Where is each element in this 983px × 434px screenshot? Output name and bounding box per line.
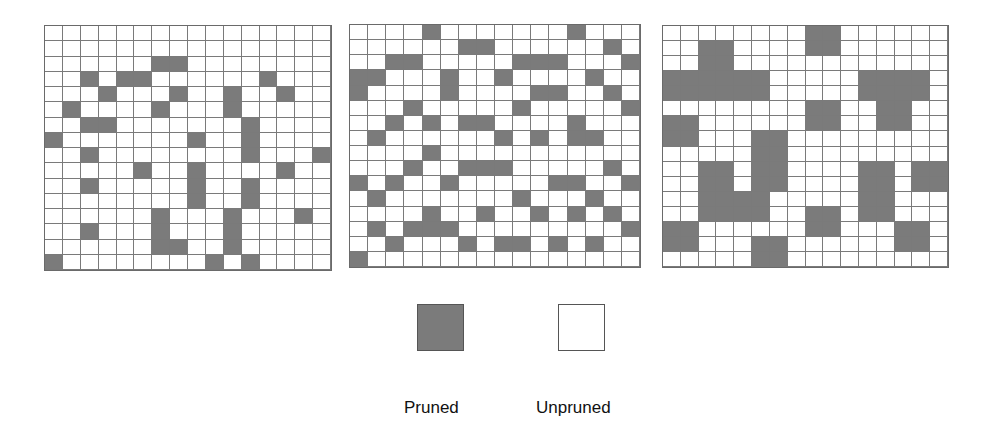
unpruned-cell (441, 207, 459, 222)
unpruned-cell (734, 162, 752, 177)
unpruned-cell (188, 102, 206, 117)
pruned-cell (823, 116, 841, 131)
unpruned-cell (568, 55, 586, 70)
unpruned-cell (81, 255, 99, 270)
unpruned-cell (681, 207, 699, 222)
unpruned-cell (734, 147, 752, 162)
unpruned-cell (586, 207, 604, 222)
unpruned-cell (170, 209, 188, 224)
unpruned-cell (823, 237, 841, 252)
unpruned-cell (441, 25, 459, 40)
unpruned-cell (188, 224, 206, 239)
unpruned-cell (699, 116, 717, 131)
pruned-cell (368, 191, 386, 206)
pruned-cell (242, 255, 260, 270)
unpruned-cell (386, 101, 404, 116)
pruned-cell (277, 87, 295, 102)
unpruned-cell (568, 237, 586, 252)
unpruned-cell (295, 163, 313, 178)
unpruned-cell (99, 240, 117, 255)
unpruned-cell (604, 70, 622, 85)
unpruned-cell (859, 147, 877, 162)
unpruned-cell (224, 133, 242, 148)
unpruned-cell (81, 26, 99, 41)
unpruned-cell (81, 209, 99, 224)
unpruned-cell (622, 207, 640, 222)
unpruned-cell (152, 87, 170, 102)
unpruned-cell (877, 56, 895, 71)
pruned-cell (81, 148, 99, 163)
unpruned-cell (699, 131, 717, 146)
pruned-cell (423, 146, 441, 161)
unpruned-cell (459, 191, 477, 206)
unpruned-cell (134, 133, 152, 148)
unpruned-cell (386, 161, 404, 176)
pruned-cell (549, 237, 567, 252)
pruned-cell (459, 237, 477, 252)
unpruned-cell (260, 224, 278, 239)
unpruned-cell (586, 222, 604, 237)
unpruned-cell (295, 87, 313, 102)
unpruned-cell (681, 252, 699, 267)
pruned-cell (770, 177, 788, 192)
unpruned-cell (81, 240, 99, 255)
unpruned-cell (188, 41, 206, 56)
unpruned-cell (681, 101, 699, 116)
unpruned-cell (260, 118, 278, 133)
pruned-cell (313, 148, 331, 163)
pruned-cell (368, 222, 386, 237)
pruned-cell (224, 87, 242, 102)
pruned-cell (770, 237, 788, 252)
unpruned-cell (823, 131, 841, 146)
unpruned-cell (788, 222, 806, 237)
unpruned-cell (895, 41, 913, 56)
unpruned-cell (63, 240, 81, 255)
pruned-cell (806, 26, 824, 41)
pruned-cell (188, 133, 206, 148)
unpruned-cell (513, 146, 531, 161)
legend-swatch-unpruned (558, 304, 605, 351)
unpruned-cell (45, 41, 63, 56)
pruned-cell (604, 86, 622, 101)
unpruned-cell (752, 56, 770, 71)
unpruned-cell (622, 191, 640, 206)
unpruned-cell (568, 86, 586, 101)
unpruned-cell (45, 72, 63, 87)
unpruned-cell (531, 25, 549, 40)
pruned-cell (495, 237, 513, 252)
unpruned-cell (895, 192, 913, 207)
unpruned-cell (386, 70, 404, 85)
pruned-cell (912, 222, 930, 237)
pruned-cell (752, 192, 770, 207)
unpruned-cell (752, 222, 770, 237)
unpruned-cell (806, 192, 824, 207)
unpruned-cell (531, 176, 549, 191)
unpruned-cell (930, 116, 948, 131)
unpruned-cell (170, 72, 188, 87)
pruned-cell (242, 133, 260, 148)
unpruned-cell (117, 148, 135, 163)
unpruned-cell (459, 25, 477, 40)
unpruned-cell (681, 26, 699, 41)
unpruned-cell (45, 163, 63, 178)
unpruned-cell (513, 161, 531, 176)
unpruned-cell (841, 162, 859, 177)
pruned-cell (350, 70, 368, 85)
pruned-cell (699, 56, 717, 71)
pruned-cell (663, 222, 681, 237)
unpruned-cell (513, 131, 531, 146)
pruned-cell (770, 162, 788, 177)
unpruned-cell (242, 163, 260, 178)
pruned-cell (770, 147, 788, 162)
unpruned-cell (152, 26, 170, 41)
unpruned-cell (260, 57, 278, 72)
unpruned-cell (63, 224, 81, 239)
unpruned-cell (663, 26, 681, 41)
unpruned-cell (441, 116, 459, 131)
unpruned-cell (877, 26, 895, 41)
unpruned-cell (350, 146, 368, 161)
unpruned-cell (117, 194, 135, 209)
unpruned-cell (350, 161, 368, 176)
unpruned-cell (895, 147, 913, 162)
pruned-cell (663, 237, 681, 252)
